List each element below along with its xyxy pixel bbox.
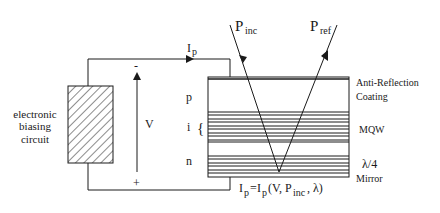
- photodetector-diagram: electronic biasing circuit I p - V + p i…: [0, 0, 440, 213]
- svg-text:I: I: [239, 181, 243, 195]
- mirror-label-line2: Mirror: [356, 173, 383, 184]
- i-region-brace: {: [197, 120, 204, 136]
- minus-sign: -: [134, 59, 138, 73]
- circuit-label-line1: electronic: [13, 108, 56, 120]
- svg-text:inc: inc: [293, 187, 306, 198]
- mqw-label: MQW: [359, 124, 385, 135]
- device-stack: [208, 77, 349, 177]
- reflected-power-label: P: [310, 18, 318, 34]
- svg-text:I: I: [257, 181, 261, 195]
- mirror-label-line1: λ/4: [362, 157, 377, 171]
- voltage-arrow: [133, 72, 141, 172]
- incident-power-sub: inc: [245, 25, 258, 36]
- svg-text:=: =: [250, 181, 257, 195]
- svg-text:(V, P: (V, P: [268, 181, 292, 195]
- current-label-sub: p: [192, 46, 197, 57]
- incident-power-label: P: [235, 18, 243, 34]
- voltage-label: V: [145, 117, 154, 131]
- reflected-arrow-icon: [321, 50, 328, 61]
- layer-label-i: i: [187, 120, 191, 134]
- layer-label-n: n: [186, 154, 192, 168]
- current-label: I: [187, 41, 191, 55]
- incident-arrow-icon: [239, 55, 247, 63]
- circuit-label-line3: circuit: [21, 133, 49, 145]
- plus-sign: +: [133, 176, 140, 190]
- arc-label-line1: Anti-Reflection: [356, 77, 419, 88]
- arc-label-line2: Coating: [356, 91, 388, 102]
- layer-label-p: p: [186, 90, 192, 104]
- svg-text:p: p: [244, 187, 249, 198]
- photocurrent-equation: I p = I p (V, P inc , λ): [239, 181, 323, 198]
- circuit-label-line2: biasing: [19, 120, 51, 132]
- biasing-circuit-block: [68, 86, 113, 163]
- svg-text:p: p: [262, 187, 267, 198]
- reflected-power-sub: ref: [320, 25, 332, 36]
- svg-text:, λ): , λ): [307, 181, 323, 195]
